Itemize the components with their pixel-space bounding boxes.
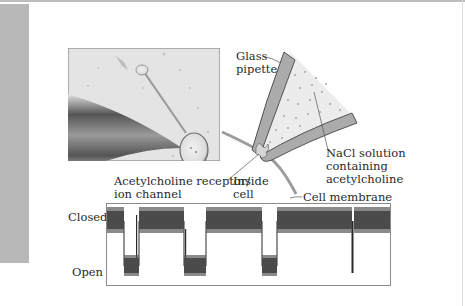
nacl-solution-label: NaCl solution containing acetylcholine	[326, 147, 406, 186]
closed-state-label: Closed	[68, 210, 107, 224]
glass-pipette-label: Glass pipette	[236, 50, 277, 76]
open-state-label: Open	[72, 265, 103, 279]
channel-recording-trace	[106, 203, 391, 286]
receptor-label: Acetylcholine receptor/ ion channel	[114, 175, 250, 201]
inside-cell-label: Inside cell	[233, 175, 269, 201]
